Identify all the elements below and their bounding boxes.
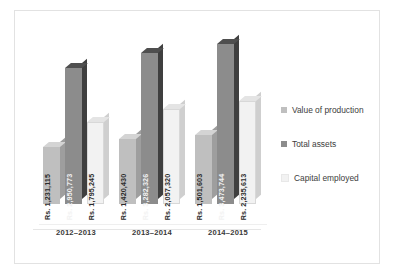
plot-area: Rs. 1,231,115 Rs. 2,950,773 Rs. 1,795,24… bbox=[15, 11, 275, 265]
bar-value-label: Rs. 3,282,326 bbox=[141, 174, 150, 220]
bar-value-of-production[interactable]: Rs. 1,501,603 bbox=[195, 135, 212, 204]
bar-value-of-production[interactable]: Rs. 1,420,430 bbox=[119, 139, 136, 204]
bar-total-assets[interactable]: Rs. 3,282,326 bbox=[141, 53, 158, 204]
bar-value-label: Rs. 1,501,603 bbox=[195, 174, 204, 220]
legend-item-label: Value of production bbox=[292, 105, 364, 115]
bar-side-face bbox=[180, 100, 185, 199]
legend-item-total-assets[interactable]: Total assets bbox=[281, 127, 391, 161]
chart-legend: Value of production Total assets Capital… bbox=[281, 93, 391, 195]
bar-capital-employed[interactable]: Rs. 1,795,245 bbox=[87, 122, 104, 204]
bar-side-face bbox=[256, 92, 261, 199]
axis-category-label: 2013–2014 bbox=[113, 228, 191, 237]
plot-floor-back bbox=[39, 224, 267, 225]
bar-capital-employed[interactable]: Rs. 2,235,613 bbox=[239, 101, 256, 204]
bar-value-label: Rs. 2,950,773 bbox=[65, 174, 74, 220]
bar-group: Rs. 1,231,115 Rs. 2,950,773 Rs. 1,795,24… bbox=[37, 34, 115, 204]
bar-total-assets[interactable]: Rs. 2,950,773 bbox=[65, 68, 82, 204]
bar-group: Rs. 1,420,430 Rs. 3,282,326 Rs. 2,057,32… bbox=[113, 34, 191, 204]
legend-item-capital-employed[interactable]: Capital employed bbox=[281, 161, 391, 195]
bar-value-label: Rs. 2,057,320 bbox=[163, 174, 172, 220]
bar-group: Rs. 1,501,603 Rs. 3,473,744 Rs. 2,235,61… bbox=[189, 34, 267, 204]
bar-value-label: Rs. 1,420,430 bbox=[119, 174, 128, 220]
chart-frame: Rs. 1,231,115 Rs. 2,950,773 Rs. 1,795,24… bbox=[14, 10, 380, 264]
bar-total-assets[interactable]: Rs. 3,473,744 bbox=[217, 44, 234, 204]
bar-capital-employed[interactable]: Rs. 2,057,320 bbox=[163, 109, 180, 204]
legend-swatch-icon bbox=[281, 141, 287, 147]
legend-swatch-icon bbox=[281, 107, 287, 113]
legend-swatch-icon bbox=[281, 174, 289, 182]
legend-item-value-of-production[interactable]: Value of production bbox=[281, 93, 391, 127]
bar-value-label: Rs. 1,795,245 bbox=[87, 174, 96, 220]
bar-side-face bbox=[104, 113, 109, 199]
axis-category-label: 2014–2015 bbox=[189, 228, 267, 237]
bar-value-label: Rs. 3,473,744 bbox=[217, 174, 226, 220]
bar-value-label: Rs. 1,231,115 bbox=[43, 174, 52, 220]
bar-value-label: Rs. 2,235,613 bbox=[239, 174, 248, 220]
axis-category-label: 2012–2013 bbox=[37, 228, 115, 237]
legend-item-label: Total assets bbox=[292, 139, 336, 149]
legend-item-label: Capital employed bbox=[294, 173, 359, 183]
bar-value-of-production[interactable]: Rs. 1,231,115 bbox=[43, 147, 60, 204]
